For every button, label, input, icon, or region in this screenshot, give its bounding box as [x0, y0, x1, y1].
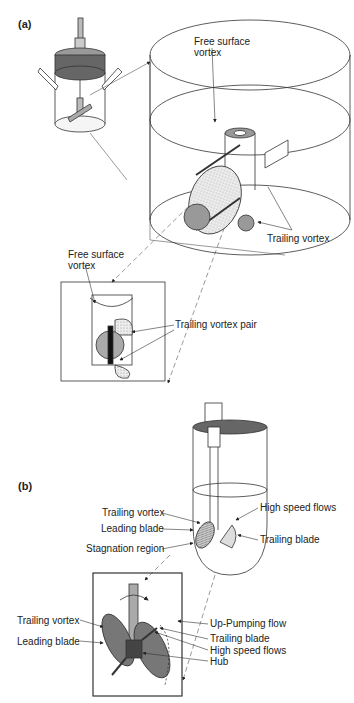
large-tank-cylinder: [150, 20, 350, 255]
diagram-canvas: [0, 0, 354, 703]
vessel-b: [192, 403, 267, 575]
panel-b-label: (b): [18, 480, 32, 492]
label-inset-leading-blade: Leading blade: [17, 636, 80, 647]
small-stirred-tank: [38, 18, 122, 132]
label-hub: Hub: [210, 656, 228, 667]
label-inset-trailing-blade: Trailing blade: [210, 633, 270, 644]
label-trailing-vortex-pair: Trailing vortex pair: [175, 319, 257, 330]
panel-a-label: (a): [18, 18, 31, 30]
label-inset-high-speed-flows: High speed flows: [210, 645, 286, 656]
label-free-surface-vortex-l1: Free surface: [194, 36, 250, 47]
inset-b: [93, 573, 182, 696]
label-free-surface-vortex-l2: vortex: [194, 47, 221, 58]
label-trailing-vortex-b: Trailing vortex: [102, 507, 164, 518]
label-trailing-blade-b: Trailing blade: [260, 534, 320, 545]
label-high-speed-flows-b: High speed flows: [260, 502, 336, 513]
label-stagnation-region: Stagnation region: [86, 543, 164, 554]
label-trailing-vortex-a: Trailing vortex: [267, 233, 329, 244]
label-inset-free-surface-vortex-l2: vortex: [68, 260, 95, 271]
inset-a: [61, 282, 165, 381]
label-leading-blade-b: Leading blade: [101, 523, 164, 534]
label-up-pumping-flow: Up-Pumping flow: [210, 618, 286, 629]
label-inset-free-surface-vortex-l1: Free surface: [68, 249, 124, 260]
label-inset-trailing-vortex: Trailing vortex: [17, 615, 79, 626]
